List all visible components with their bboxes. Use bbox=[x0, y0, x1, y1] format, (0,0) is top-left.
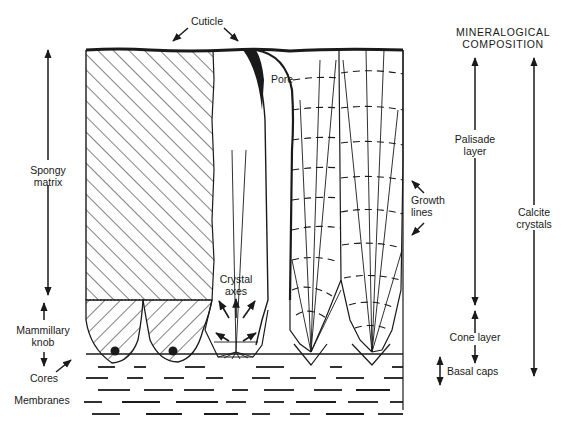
label-crystal-axes-2: axes bbox=[216, 285, 256, 297]
label-mammillary-knob-2: knob bbox=[10, 336, 76, 348]
label-cone-layer: Cone layer bbox=[445, 331, 505, 343]
cuticle-arrow-right bbox=[224, 28, 238, 41]
label-spongy-matrix-2: matrix bbox=[18, 176, 78, 188]
growth-lines-arrow-up bbox=[412, 181, 424, 193]
heading-mineralogical: MINERALOGICAL bbox=[450, 26, 556, 38]
label-calcite-crystals-1: Calcite bbox=[510, 206, 558, 218]
spongy-matrix-region bbox=[86, 50, 214, 300]
label-spongy-matrix-1: Spongy bbox=[18, 164, 78, 176]
label-mammillary-knob-1: Mammillary bbox=[10, 324, 76, 336]
crystal-axes-column bbox=[205, 50, 293, 359]
palisade-columns bbox=[290, 50, 403, 365]
label-pore: Pore bbox=[268, 73, 296, 85]
label-basal-caps: Basal caps bbox=[447, 365, 509, 377]
heading-composition: COMPOSITION bbox=[450, 38, 556, 50]
cuticle-arrow-left bbox=[173, 28, 188, 41]
label-calcite-crystals-2: crystals bbox=[510, 218, 558, 230]
label-membranes: Membranes bbox=[12, 394, 72, 406]
cores-arrow bbox=[56, 360, 71, 372]
membranes bbox=[84, 367, 403, 414]
label-growth-lines-1: Growth bbox=[411, 194, 451, 206]
cuticle-layer bbox=[86, 49, 403, 51]
growth-lines-arrow-down bbox=[412, 223, 424, 235]
label-growth-lines-2: lines bbox=[411, 206, 451, 218]
label-cuticle: Cuticle bbox=[186, 15, 228, 27]
label-palisade-layer-2: layer bbox=[450, 145, 500, 157]
label-palisade-layer-1: Palisade bbox=[450, 133, 500, 145]
label-cores: Cores bbox=[26, 372, 62, 384]
label-crystal-axes-1: Crystal bbox=[216, 273, 256, 285]
